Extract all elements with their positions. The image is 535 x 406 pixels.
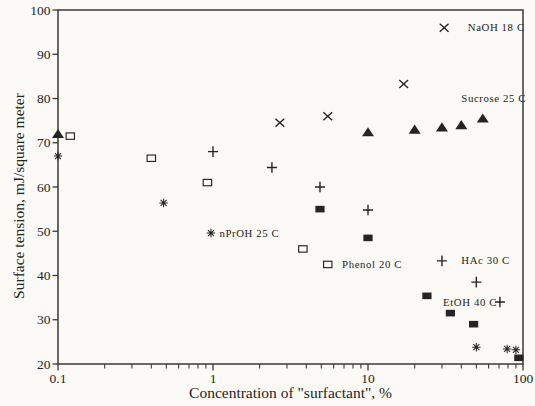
y-tick-label: 20 xyxy=(37,357,51,372)
y-tick-label: 50 xyxy=(37,224,51,239)
naoh-data-point xyxy=(275,119,284,127)
etoh-data-point xyxy=(315,206,324,213)
hac-data-point xyxy=(315,182,325,193)
nproh-data-point xyxy=(207,229,215,237)
phenol-data-point xyxy=(203,179,211,185)
series-label-naoh: NaOH 18 C xyxy=(468,21,525,33)
figure-root: 0.11101002030405060708090100NaOH 18 CSuc… xyxy=(0,0,535,406)
hac-data-point xyxy=(208,146,218,157)
y-tick-label: 90 xyxy=(37,47,51,62)
sucrose-data-point xyxy=(52,129,64,138)
naoh-data-point xyxy=(440,24,449,32)
etoh-data-point xyxy=(422,293,431,300)
hac-data-point xyxy=(437,256,447,267)
series-label-phenol: Phenol 20 C xyxy=(342,258,402,270)
sucrose-data-point xyxy=(455,120,467,129)
sucrose-data-point xyxy=(477,113,489,122)
sucrose-data-point xyxy=(436,122,448,131)
y-tick-label: 80 xyxy=(37,91,51,106)
series-label-nproh: nPrOH 25 C xyxy=(219,227,279,239)
y-tick-label: 60 xyxy=(37,180,51,195)
naoh-data-point xyxy=(323,112,332,120)
y-tick-label: 40 xyxy=(37,268,51,283)
hac-data-point xyxy=(471,277,481,288)
etoh-data-point xyxy=(446,310,455,317)
sucrose-data-point xyxy=(409,124,421,133)
hac-data-point xyxy=(267,162,277,173)
naoh-data-point xyxy=(399,80,408,88)
phenol-data-point xyxy=(299,246,307,252)
sucrose-data-point xyxy=(362,127,374,136)
scatter-chart: 0.11101002030405060708090100NaOH 18 CSuc… xyxy=(0,0,535,406)
hac-data-point xyxy=(363,205,373,216)
series-label-hac: HAc 30 C xyxy=(461,254,510,266)
phenol-data-point xyxy=(147,155,155,161)
phenol-data-point xyxy=(324,261,332,267)
y-tick-label: 30 xyxy=(37,312,51,327)
nproh-data-point xyxy=(503,345,511,353)
series-label-sucrose: Sucrose 25 C xyxy=(461,92,526,104)
y-axis-title: Surface tension, mJ/square meter xyxy=(10,93,28,299)
etoh-data-point xyxy=(514,355,523,362)
y-tick-label: 100 xyxy=(30,3,51,18)
nproh-data-point xyxy=(54,152,62,160)
nproh-data-point xyxy=(159,199,167,207)
x-axis-title: Concentration of "surfactant", % xyxy=(58,384,523,402)
etoh-data-point xyxy=(469,321,478,328)
nproh-data-point xyxy=(472,343,480,351)
y-tick-label: 70 xyxy=(37,135,51,150)
etoh-data-point xyxy=(363,235,372,242)
phenol-data-point xyxy=(66,133,74,139)
series-label-etoh: EtOH 40 C xyxy=(443,296,497,308)
nproh-data-point xyxy=(512,346,520,354)
